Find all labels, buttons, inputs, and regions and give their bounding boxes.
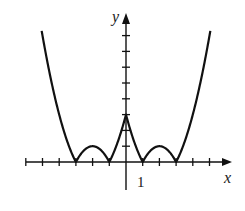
y-axis-arrow-icon	[122, 13, 130, 24]
x-tick-label-1: 1	[137, 174, 145, 190]
function-graph: y x 1	[0, 0, 245, 211]
x-axis-label: x	[223, 169, 231, 186]
x-axis-arrow-icon	[222, 158, 232, 166]
y-axis-label: y	[110, 8, 120, 26]
